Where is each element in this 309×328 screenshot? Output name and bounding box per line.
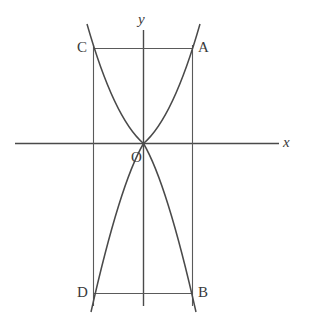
point-label-a: A — [198, 40, 209, 55]
point-label-c: C — [77, 40, 87, 55]
y-axis-label: y — [138, 12, 145, 27]
origin-label: O — [131, 150, 142, 165]
figure-canvas — [0, 0, 309, 328]
x-axis-label: x — [283, 135, 290, 150]
point-label-d: D — [77, 285, 88, 300]
parabola-figure: C A D B O x y — [0, 0, 309, 328]
point-label-b: B — [198, 285, 208, 300]
